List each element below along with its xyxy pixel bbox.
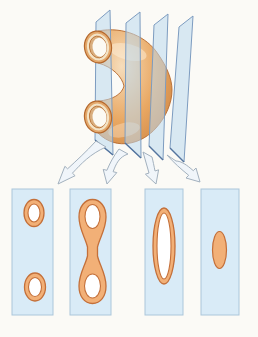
section-panel-1 bbox=[12, 189, 53, 315]
section-1-ring-bottom-hole bbox=[29, 278, 42, 297]
section-panel-4 bbox=[201, 189, 239, 315]
figure-serial-sections bbox=[0, 0, 258, 337]
section-panel-2 bbox=[70, 189, 111, 315]
section-4-solid-oval bbox=[213, 232, 227, 269]
section-2-hole-bottom bbox=[85, 274, 101, 298]
cutting-plane-2 bbox=[125, 12, 141, 158]
section-2-hole-top bbox=[85, 205, 100, 229]
section-panel-3 bbox=[145, 189, 183, 315]
section-1-ring-top-hole bbox=[28, 204, 40, 222]
section-3-oval-hole bbox=[157, 213, 171, 279]
